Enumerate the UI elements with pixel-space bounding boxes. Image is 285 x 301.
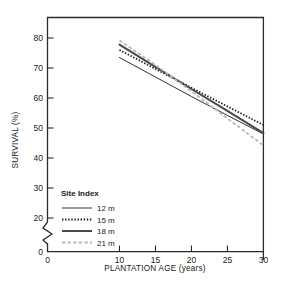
x-axis-title: PLANTATION AGE (years) — [104, 264, 206, 273]
survival-vs-plantation-age-chart: 020304050607080 01015202530 PLANTATION A… — [0, 0, 285, 301]
y-tick-label: 0 — [38, 247, 43, 257]
legend-label-15-m: 15 m — [97, 216, 115, 225]
legend-label-21-m: 21 m — [97, 239, 115, 248]
legend-title: Site Index — [61, 189, 99, 198]
y-tick-label: 40 — [34, 153, 44, 163]
legend-label-12-m: 12 m — [97, 204, 115, 213]
y-axis-title: SURVIVAL (%) — [11, 112, 20, 169]
y-tick-label: 80 — [34, 33, 44, 43]
x-tick-label: 25 — [223, 255, 233, 265]
y-tick-label: 70 — [34, 63, 44, 73]
figure-container: 020304050607080 01015202530 PLANTATION A… — [0, 0, 285, 301]
y-tick-label: 30 — [34, 183, 44, 193]
x-tick-label: 30 — [259, 255, 269, 265]
legend-label-18-m: 18 m — [97, 227, 115, 236]
y-tick-label: 50 — [34, 123, 44, 133]
x-tick-label: 0 — [45, 255, 50, 265]
y-tick-label: 60 — [34, 93, 44, 103]
y-tick-label: 20 — [34, 213, 44, 223]
